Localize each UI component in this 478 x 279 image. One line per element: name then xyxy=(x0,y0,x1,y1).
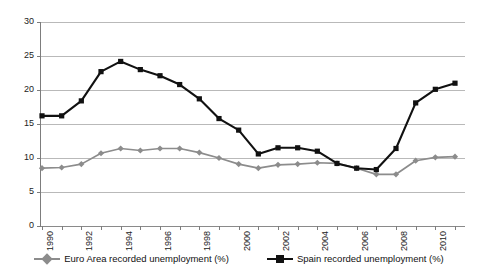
data-point-diamond xyxy=(216,155,222,161)
data-point-square xyxy=(98,69,103,74)
data-point-square xyxy=(275,145,280,150)
data-point-square xyxy=(393,146,398,151)
legend-label-euro-area: Euro Area recorded unemployment (%) xyxy=(64,254,229,264)
data-point-diamond xyxy=(255,165,261,171)
series-layer xyxy=(0,0,478,279)
data-point-square xyxy=(295,145,300,150)
data-point-square xyxy=(138,67,143,72)
data-point-square xyxy=(177,82,182,87)
diamond-marker-icon xyxy=(42,253,53,264)
data-point-square xyxy=(334,161,339,166)
data-point-square xyxy=(79,98,84,103)
unemployment-line-chart: 051015202530 199019921994199619982000200… xyxy=(0,0,478,279)
data-point-diamond xyxy=(275,162,281,168)
data-point-square xyxy=(39,113,44,118)
legend-swatch-diamond-icon xyxy=(34,254,60,264)
data-point-diamond xyxy=(137,147,143,153)
data-point-square xyxy=(354,166,359,171)
legend-swatch-square-icon xyxy=(267,254,293,264)
data-point-diamond xyxy=(236,161,242,167)
data-point-square xyxy=(315,149,320,154)
legend-item-euro-area[interactable]: Euro Area recorded unemployment (%) xyxy=(34,254,229,264)
data-point-square xyxy=(433,87,438,92)
data-point-diamond xyxy=(452,154,458,160)
data-point-diamond xyxy=(177,145,183,151)
data-point-diamond xyxy=(196,149,202,155)
data-point-square xyxy=(374,167,379,172)
data-point-square xyxy=(216,116,221,121)
legend-label-spain: Spain recorded unemployment (%) xyxy=(297,254,444,264)
data-point-square xyxy=(59,113,64,118)
data-point-diamond xyxy=(59,164,65,170)
data-point-diamond xyxy=(314,160,320,166)
data-point-diamond xyxy=(118,145,124,151)
legend-item-spain[interactable]: Spain recorded unemployment (%) xyxy=(267,254,444,264)
data-point-square xyxy=(197,96,202,101)
data-point-square xyxy=(236,128,241,133)
data-point-square xyxy=(157,73,162,78)
data-point-square xyxy=(452,81,457,86)
data-point-diamond xyxy=(157,145,163,151)
data-point-square xyxy=(413,100,418,105)
data-point-square xyxy=(118,59,123,64)
data-point-diamond xyxy=(295,161,301,167)
data-point-diamond xyxy=(39,165,45,171)
square-marker-icon xyxy=(276,255,284,263)
chart-legend: Euro Area recorded unemployment (%) Spai… xyxy=(0,254,478,264)
data-point-diamond xyxy=(432,154,438,160)
data-point-square xyxy=(256,151,261,156)
